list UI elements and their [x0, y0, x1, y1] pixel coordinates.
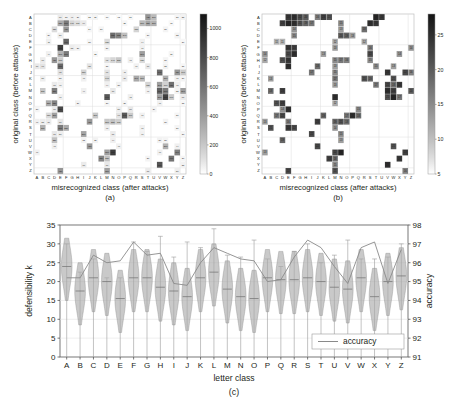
y-tick-label-left: 15: [47, 296, 56, 305]
x-tick-label: D: [104, 361, 110, 370]
x-tick-label: Z: [399, 361, 404, 370]
x-tick-label: K: [198, 361, 204, 370]
colorbar-tick-label: 1000: [210, 25, 222, 31]
y-tick-label: S: [257, 125, 260, 130]
x-tick-label: Q: [357, 175, 360, 180]
x-tick-label: Q: [129, 175, 132, 180]
violin-chart: 051015202530359192939495969798ABCDEFGHIJ…: [24, 221, 434, 397]
y-axis-label: original class (before attacks): [11, 44, 20, 143]
colorbar-tick-label: 200: [210, 142, 219, 148]
y-tick-label: J: [30, 70, 32, 75]
y-tick-label: Z: [29, 168, 32, 173]
x-tick-label: K: [94, 175, 97, 180]
y-tick-label: C: [257, 27, 260, 32]
x-tick-label: D: [281, 175, 284, 180]
y-tick-label: P: [257, 107, 260, 112]
x-tick-label: C: [91, 361, 97, 370]
heatmap-b: 2425222016232126242326252119171525241413…: [239, 14, 414, 202]
y-tick-label: H: [257, 58, 260, 63]
y-tick-label: M: [28, 88, 32, 93]
panel-a: 6038463622311812214302602835330560140110…: [0, 0, 232, 208]
y-tick-label: C: [29, 27, 32, 32]
x-tick-label: I: [83, 175, 84, 180]
x-tick-label: M: [105, 175, 109, 180]
x-tick-label: U: [152, 175, 155, 180]
y-tick-label: Q: [29, 113, 32, 118]
x-tick-label: I: [173, 361, 175, 370]
x-tick-label: G: [70, 175, 73, 180]
panel-caption: (a): [105, 193, 115, 202]
y-tick-label-right: 95: [413, 277, 422, 286]
y-axis-label-left: defensibility k: [24, 265, 34, 317]
panel-c: 051015202530359192939495969798ABCDEFGHIJ…: [0, 205, 463, 417]
x-tick-label: H: [157, 361, 163, 370]
y-tick-label: T: [29, 132, 32, 137]
colorbar-tick-label: 600: [210, 84, 219, 90]
x-tick-label: A: [64, 361, 70, 370]
y-axis-label-right: accuracy: [424, 273, 434, 308]
y-tick-label: F: [29, 45, 32, 50]
y-tick-label-left: 30: [47, 240, 56, 249]
y-tick-label: R: [29, 119, 32, 124]
y-tick-label-right: 94: [413, 296, 422, 305]
y-tick-label: Y: [29, 162, 32, 167]
x-tick-label: W: [357, 361, 365, 370]
y-tick-label: H: [29, 58, 32, 63]
y-tick-label-left: 20: [47, 277, 56, 286]
x-tick-label: L: [212, 361, 217, 370]
y-tick-label: J: [258, 70, 260, 75]
y-tick-label: Z: [257, 168, 260, 173]
y-tick-label: V: [29, 144, 32, 149]
x-tick-label: M: [224, 361, 231, 370]
x-tick-label: N: [238, 361, 244, 370]
y-tick-label: W: [28, 150, 32, 155]
y-tick-label: X: [257, 156, 260, 161]
x-tick-label: N: [111, 175, 114, 180]
y-tick-label: I: [31, 64, 32, 69]
y-tick-label: E: [29, 39, 32, 44]
x-tick-label: O: [117, 175, 120, 180]
x-tick-label: E: [287, 175, 290, 180]
x-tick-label: H: [304, 175, 307, 180]
y-tick-label: G: [29, 52, 32, 57]
y-tick-label-right: 98: [413, 221, 422, 230]
x-tick-label: P: [351, 175, 354, 180]
colorbar: [428, 14, 435, 174]
y-tick-label: A: [257, 15, 260, 20]
x-tick-label: S: [369, 175, 372, 180]
x-tick-label: T: [375, 175, 378, 180]
x-tick-label: R: [363, 175, 366, 180]
x-tick-label: N: [339, 175, 342, 180]
x-tick-label: P: [265, 361, 270, 370]
panel-b-svg: 2425222016232126242326252119171525241413…: [232, 0, 463, 208]
x-tick-label: L: [328, 175, 331, 180]
colorbar-tick-label: 15: [438, 101, 444, 107]
y-tick-label-left: 25: [47, 259, 56, 268]
x-tick-label: T: [147, 175, 150, 180]
colorbar-tick-label: 800: [210, 55, 219, 61]
y-tick-label: Q: [257, 113, 260, 118]
y-tick-label-left: 0: [51, 353, 56, 362]
y-tick-label-right: 96: [413, 259, 422, 268]
panel-a-svg: 6038463622311812214302602835330560140110…: [0, 0, 232, 208]
colorbar-tick-label: 20: [438, 67, 444, 73]
y-tick-label: K: [29, 76, 32, 81]
x-tick-label: Z: [410, 175, 413, 180]
x-tick-label: B: [269, 175, 272, 180]
y-tick-label-left: 35: [47, 221, 56, 230]
x-tick-label: J: [317, 175, 319, 180]
x-tick-label: W: [392, 175, 396, 180]
x-tick-label: M: [333, 175, 337, 180]
x-tick-label: Z: [182, 175, 185, 180]
y-tick-label: L: [258, 82, 261, 87]
y-tick-label: K: [257, 76, 260, 81]
y-tick-label: O: [29, 101, 32, 106]
colorbar-tick-label: 10: [438, 136, 444, 142]
y-tick-label: U: [29, 138, 32, 143]
y-tick-label: B: [257, 21, 260, 26]
x-tick-label: X: [372, 361, 378, 370]
x-tick-label: S: [141, 175, 144, 180]
x-tick-label: F: [293, 175, 296, 180]
y-tick-label: S: [29, 125, 32, 130]
y-tick-label: E: [257, 39, 260, 44]
